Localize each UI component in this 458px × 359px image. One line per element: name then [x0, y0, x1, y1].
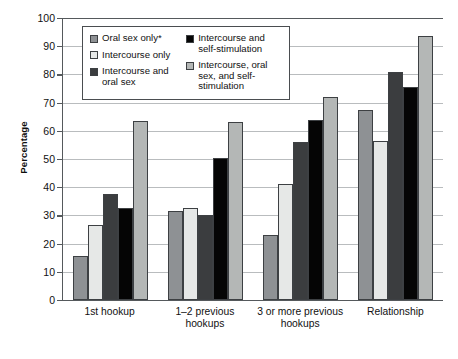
legend-item-label: Intercourse, oral sex, and self-stimulat…: [198, 60, 282, 92]
legend-item-label: Intercourse only: [102, 50, 170, 61]
bar: [323, 97, 338, 300]
legend-column-left: Oral sex only*Intercourse onlyIntercours…: [90, 33, 178, 92]
y-axis-tick-label: 60: [43, 125, 55, 137]
y-axis-tick-label: 10: [43, 266, 55, 278]
y-axis-tick-label: 30: [43, 209, 55, 221]
bar: [263, 235, 278, 300]
legend-item-label: Oral sex only*: [102, 33, 162, 44]
legend-swatch-icon: [90, 68, 98, 76]
legend-item: Intercourse, oral sex, and self-stimulat…: [186, 60, 282, 92]
legend-column-right: Intercourse and self-stimulationIntercou…: [186, 33, 282, 92]
legend-item: Intercourse and oral sex: [90, 66, 178, 87]
y-axis-tick-label: 80: [43, 68, 55, 80]
legend-swatch-icon: [90, 51, 98, 59]
legend-swatch-icon: [186, 35, 194, 43]
bar: [228, 122, 243, 300]
bar: [213, 158, 228, 300]
bar: [293, 142, 308, 300]
x-axis-labels: 1st hookup1–2 previous hookups3 or more …: [62, 306, 443, 331]
bar: [308, 120, 323, 300]
bar: [403, 87, 418, 300]
bar: [278, 184, 293, 300]
bar: [358, 110, 373, 300]
bar-group: [348, 18, 443, 300]
legend-item: Intercourse and self-stimulation: [186, 33, 282, 54]
legend-swatch-icon: [186, 62, 194, 70]
y-axis-tick-label: 70: [43, 97, 55, 109]
y-axis-tick-label: 0: [49, 294, 55, 306]
bar: [388, 72, 403, 300]
bar: [183, 208, 198, 300]
y-axis-tick-label: 20: [43, 238, 55, 250]
bar: [373, 141, 388, 300]
y-axis-tick-label: 50: [43, 153, 55, 165]
chart-legend: Oral sex only*Intercourse onlyIntercours…: [82, 26, 290, 100]
y-axis-tick-label: 40: [43, 181, 55, 193]
x-axis-label: 1–2 previous hookups: [157, 306, 252, 331]
legend-item-label: Intercourse and oral sex: [102, 66, 178, 87]
legend-swatch-icon: [90, 35, 98, 43]
y-axis-tick-label: 90: [43, 40, 55, 52]
y-axis-tick-label: 100: [37, 12, 55, 24]
legend-item: Intercourse only: [90, 50, 178, 61]
gridline: 0: [63, 300, 443, 301]
legend-item: Oral sex only*: [90, 33, 178, 44]
bar: [103, 194, 118, 300]
x-axis-label: Relationship: [348, 306, 443, 331]
bar: [133, 121, 148, 300]
bar: [73, 256, 88, 300]
bar: [198, 215, 213, 300]
bar-chart: Percentage 1009080706050403020100 Oral s…: [0, 0, 458, 359]
x-axis-label: 1st hookup: [62, 306, 157, 331]
bar: [168, 211, 183, 300]
legend-item-label: Intercourse and self-stimulation: [198, 33, 282, 54]
x-axis-label: 3 or more previous hookups: [253, 306, 348, 331]
y-axis-title: Percentage: [18, 103, 29, 193]
bar: [418, 36, 433, 300]
bar: [118, 208, 133, 300]
y-axis-tick: [57, 300, 63, 301]
bar: [88, 225, 103, 300]
